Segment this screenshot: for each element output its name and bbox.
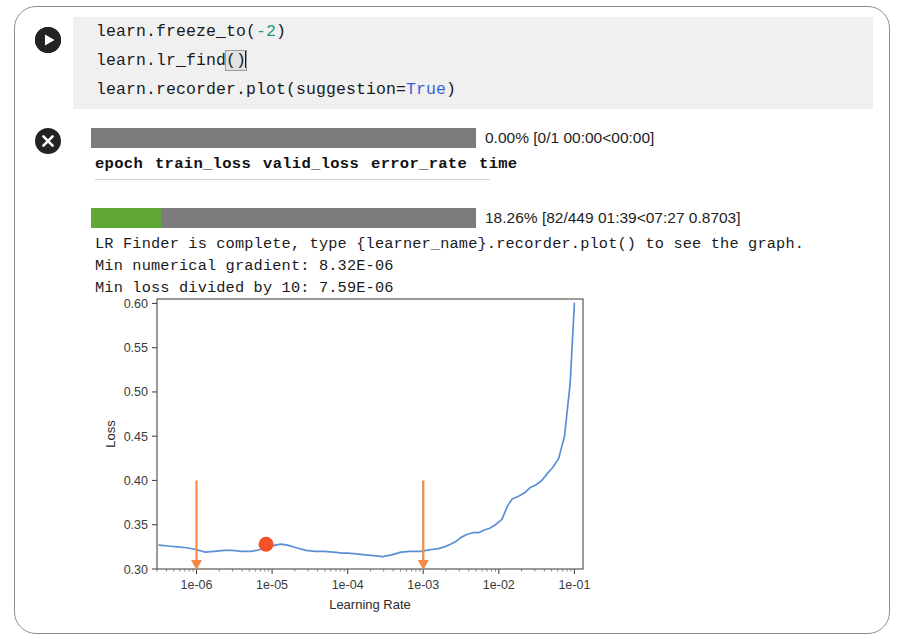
epoch-progress-bar (91, 128, 476, 148)
code-cell: learn.freeze_to(-2) learn.lr_find() lear… (33, 17, 875, 112)
code-line-3-tail: ) (446, 80, 456, 99)
loss-curve (159, 303, 574, 556)
code-line-2-text: learn.lr_find (96, 51, 226, 70)
epoch-progress-row: 0.00% [0/1 00:00<00:00] (91, 127, 654, 149)
column-error-rate: error_rate (371, 155, 467, 173)
x-axis-tick-label: 1e-02 (483, 578, 515, 592)
lr-finder-complete-message: LR Finder is complete, type {learner_nam… (95, 235, 804, 253)
min-numerical-gradient-text: Min numerical gradient: 8.32E-06 (95, 257, 394, 275)
metrics-table-divider (95, 179, 490, 180)
y-axis-tick-label: 0.45 (124, 430, 148, 444)
notebook-cell-container: learn.freeze_to(-2) learn.lr_find() lear… (14, 6, 890, 634)
y-axis-tick-label: 0.30 (124, 563, 148, 577)
code-line-1: learn.freeze_to(-2) (73, 17, 873, 46)
column-epoch: epoch (95, 155, 143, 173)
batch-progress-fill (91, 208, 161, 228)
code-line-1-text: learn.freeze_to( (96, 22, 256, 41)
y-axis-tick-label: 0.50 (124, 385, 148, 399)
code-editor[interactable]: learn.freeze_to(-2) learn.lr_find() lear… (73, 17, 873, 109)
stop-close-icon[interactable] (35, 128, 61, 158)
metrics-table: epoch train_loss valid_loss error_rate t… (95, 155, 495, 180)
epoch-progress-label: 0.00% [0/1 00:00<00:00] (485, 129, 654, 147)
y-axis-title: Loss (103, 420, 118, 448)
metrics-table-header: epoch train_loss valid_loss error_rate t… (95, 155, 495, 173)
column-time: time (479, 155, 517, 173)
text-caret (245, 51, 247, 68)
y-axis-tick-label: 0.40 (124, 474, 148, 488)
code-line-3: learn.recorder.plot(suggestion=True) (73, 75, 873, 104)
x-axis-tick-label: 1e-03 (407, 578, 439, 592)
cell-output: 0.00% [0/1 00:00<00:00] epoch train_loss… (33, 117, 878, 627)
column-train-loss: train_loss (155, 155, 251, 173)
code-line-3-keyword: True (406, 80, 446, 99)
code-line-3-text: learn.recorder.plot(suggestion= (96, 80, 406, 99)
y-axis-tick-label: 0.60 (124, 297, 148, 311)
play-icon[interactable] (35, 27, 61, 53)
column-valid-loss: valid_loss (263, 155, 359, 173)
y-axis-tick-label: 0.35 (124, 518, 148, 532)
code-line-2-parens: () (226, 51, 246, 70)
plot-frame (157, 299, 583, 569)
lr-loss-chart: 0.300.350.400.450.500.550.601e-061e-051e… (95, 287, 595, 627)
batch-progress-bar (91, 208, 476, 228)
batch-progress-row: 18.26% [82/449 01:39<07:27 0.8703] (91, 207, 741, 229)
x-axis-tick-label: 1e-06 (181, 578, 213, 592)
x-axis-title: Learning Rate (329, 597, 411, 612)
code-line-1-number: -2 (256, 22, 276, 41)
x-axis-tick-label: 1e-04 (332, 578, 364, 592)
code-line-2: learn.lr_find() (73, 46, 873, 75)
batch-progress-label: 18.26% [82/449 01:39<07:27 0.8703] (485, 209, 741, 227)
lr-finder-plot: 0.300.350.400.450.500.550.601e-061e-051e… (95, 287, 595, 627)
y-axis-tick-label: 0.55 (124, 341, 148, 355)
code-line-1-tail: ) (276, 22, 286, 41)
x-axis-tick-label: 1e-01 (558, 578, 590, 592)
x-axis-tick-label: 1e-05 (256, 578, 288, 592)
min-gradient-marker (259, 537, 274, 552)
